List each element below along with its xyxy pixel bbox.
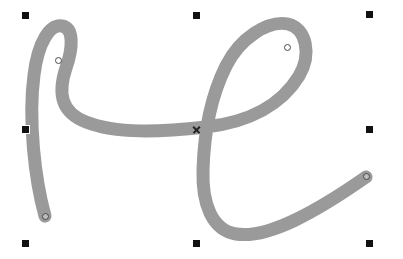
handle-middle-right[interactable] — [366, 126, 373, 133]
node-crossing-center[interactable] — [192, 125, 201, 134]
vector-canvas[interactable] — [0, 0, 403, 259]
node-end-right[interactable] — [363, 173, 370, 180]
handle-top-left[interactable] — [22, 12, 29, 19]
handle-bottom-center[interactable] — [193, 240, 200, 247]
node-upper-left-curve[interactable] — [55, 57, 62, 64]
handle-bottom-left[interactable] — [22, 240, 29, 247]
handle-top-right[interactable] — [366, 11, 373, 18]
vector-path-svg — [0, 0, 403, 259]
handle-top-center[interactable] — [193, 12, 200, 19]
node-upper-right-loop[interactable] — [284, 44, 291, 51]
node-start-bottom-left[interactable] — [42, 213, 49, 220]
handle-bottom-right[interactable] — [366, 240, 373, 247]
handle-middle-left[interactable] — [22, 126, 29, 133]
